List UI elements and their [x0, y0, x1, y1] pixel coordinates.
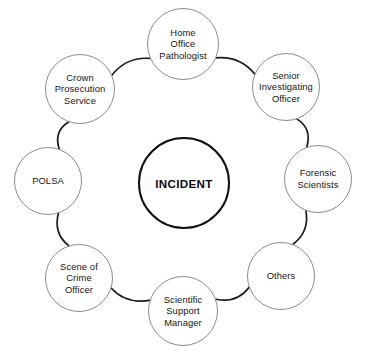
- node-senior-investigating-officer[interactable]: Senior Investigating Officer: [252, 53, 320, 121]
- node-scientific-support-manager[interactable]: Scientific Support Manager: [148, 276, 218, 346]
- center-node-label: INCIDENT: [155, 177, 213, 190]
- connector-polsa-to-crown-prosecution-service: [58, 122, 69, 149]
- node-label-forensic-scientists: Forensic Scientists: [294, 167, 341, 190]
- node-label-polsa: POLSA: [29, 175, 67, 187]
- node-label-scientific-support-manager: Scientific Support Manager: [161, 294, 205, 329]
- connector-home-office-pathologist-to-senior-investigating-officer: [216, 58, 254, 74]
- node-crown-prosecution-service[interactable]: Crown Prosecution Service: [45, 54, 115, 124]
- node-others[interactable]: Others: [247, 242, 315, 310]
- node-label-scene-of-crime-officer: Scene of Crime Officer: [57, 261, 101, 296]
- node-label-crown-prosecution-service: Crown Prosecution Service: [52, 72, 109, 107]
- connector-scene-of-crime-officer-to-polsa: [57, 213, 69, 245]
- node-label-home-office-pathologist: Home Office Pathologist: [156, 27, 209, 62]
- connector-senior-investigating-officer-to-forensic-scientists: [297, 119, 308, 147]
- node-label-others: Others: [264, 270, 299, 282]
- connector-scientific-support-manager-to-scene-of-crime-officer: [111, 288, 149, 301]
- node-scene-of-crime-officer[interactable]: Scene of Crime Officer: [45, 244, 113, 312]
- node-forensic-scientists[interactable]: Forensic Scientists: [284, 145, 352, 213]
- connector-others-to-scientific-support-manager: [216, 287, 249, 300]
- incident-ring-diagram: Home Office PathologistSenior Investigat…: [0, 0, 366, 353]
- node-label-senior-investigating-officer: Senior Investigating Officer: [256, 70, 316, 105]
- center-node-incident[interactable]: INCIDENT: [138, 137, 230, 229]
- connector-crown-prosecution-service-to-home-office-pathologist: [112, 58, 150, 75]
- connector-forensic-scientists-to-others: [293, 211, 306, 244]
- node-polsa[interactable]: POLSA: [14, 147, 82, 215]
- node-home-office-pathologist[interactable]: Home Office Pathologist: [147, 8, 219, 80]
